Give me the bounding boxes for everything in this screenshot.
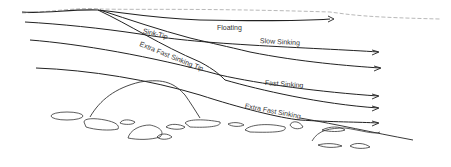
bottom-slope-line [300, 118, 413, 140]
extra-fast-sinking-line [36, 68, 378, 123]
floating-line [22, 10, 330, 21]
label-floating: Floating [217, 24, 242, 31]
large-boulder [90, 81, 200, 118]
riverbed-rocks [51, 112, 380, 148]
upper-extra-fast-arrow-icon [372, 106, 379, 111]
fast-sinking-arrow-icon [372, 94, 379, 99]
extra-fast-sinking-arrow-icon [372, 121, 379, 126]
slow-sinking-line [25, 22, 378, 52]
sink-tip-arrow-icon [374, 66, 381, 71]
sink-tip-line [100, 10, 380, 68]
fast-sinking-line [30, 40, 378, 96]
slow-sinking-arrow-icon [372, 50, 379, 55]
